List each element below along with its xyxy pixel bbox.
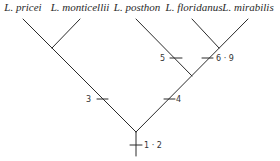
branch-pricei [23, 19, 136, 132]
branch-posthon [136, 19, 192, 76]
branch-floridanus [192, 19, 219, 48]
mark-label-3: 3 [86, 95, 91, 104]
cladogram [0, 0, 280, 161]
mark-label-1-2: 1 · 2 [144, 141, 162, 150]
mark-label-6-9: 6 · 9 [216, 54, 234, 63]
mark-label-4: 4 [176, 95, 181, 104]
branch-monticellii [52, 19, 80, 48]
mark-label-5: 5 [160, 54, 165, 63]
